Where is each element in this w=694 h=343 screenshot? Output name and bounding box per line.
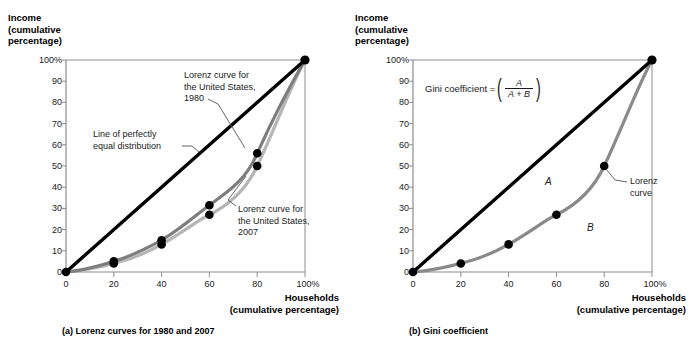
data-point-2007-60 [205, 211, 214, 220]
panel-gini-coefficient: Income (cumulative percentage) 100% 90 8… [347, 0, 694, 343]
leader-line-lorenz-curve [606, 169, 627, 182]
panel-a-caption: (a) Lorenz curves for 1980 and 2007 [62, 326, 215, 336]
annotation-lorenz-curve-line1: Lorenz [630, 176, 658, 188]
annotation-equal-distribution-line1: Line of perfectly [93, 129, 161, 141]
data-point-40 [504, 240, 513, 249]
annotation-lorenz-2007-line1: Lorenz curve for [238, 204, 310, 216]
data-point-2007-80 [253, 162, 262, 171]
data-point-2007-20 [110, 259, 119, 268]
formula-open-paren: ( [497, 78, 502, 99]
panel-lorenz-curves: Income (cumulative percentage) 100% 90 8… [0, 0, 347, 343]
data-point-60 [552, 211, 561, 220]
annotation-equal-distribution: Line of perfectly equal distribution [93, 129, 161, 152]
lorenz-curve-figure: Income (cumulative percentage) 100% 90 8… [0, 0, 694, 343]
annotation-lorenz-1980-line1: Lorenz curve for [184, 70, 256, 82]
panel-a-x-axis-title: Households (cumulative percentage) [230, 292, 339, 315]
leader-line-equal-distribution [182, 146, 199, 152]
x-axis-title-line2: (cumulative percentage) [230, 304, 339, 316]
formula-fraction: A A + B [505, 78, 533, 99]
x-axis-title-line2: (cumulative percentage) [577, 304, 686, 316]
formula-numerator: A [513, 78, 525, 88]
annotation-lorenz-curve: Lorenz curve [630, 176, 658, 199]
data-point-2007-40 [157, 240, 166, 249]
data-point-1980-100 [300, 55, 309, 64]
annotation-lorenz-2007-line3: 2007 [238, 227, 310, 239]
data-point-80 [600, 162, 609, 171]
data-point-100 [647, 55, 656, 64]
annotation-lorenz-2007: Lorenz curve for the United States, 2007 [238, 204, 310, 239]
region-label-a: A [545, 176, 552, 187]
data-point-1980-0 [62, 268, 71, 277]
data-point-1980-60 [205, 201, 214, 210]
formula-denominator: A + B [505, 88, 533, 99]
x-axis-title-line1: Households [577, 292, 686, 304]
annotation-lorenz-2007-line2: the United States, [238, 216, 310, 228]
formula-close-paren: ) [536, 78, 541, 99]
annotation-lorenz-1980: Lorenz curve for the United States, 1980 [184, 70, 256, 105]
panel-b-caption: (b) Gini coefficient [409, 326, 488, 336]
y-axis-ticks [408, 60, 413, 251]
data-point-1980-80 [253, 149, 262, 158]
annotation-lorenz-1980-line3: 1980 [184, 93, 256, 105]
annotation-lorenz-1980-line2: the United States, [184, 82, 256, 94]
data-point-0 [409, 268, 418, 277]
annotation-equal-distribution-line2: equal distribution [93, 141, 161, 153]
gini-formula-label: Gini coefficient = [425, 83, 495, 94]
gini-coefficient-formula: Gini coefficient = ( A A + B ) [425, 78, 543, 99]
x-axis-ticks [461, 272, 652, 277]
region-label-b: B [587, 222, 594, 233]
y-axis-ticks [61, 60, 66, 251]
panel-b-x-axis-title: Households (cumulative percentage) [577, 292, 686, 315]
x-axis-ticks [114, 272, 305, 277]
annotation-lorenz-curve-line2: curve [630, 188, 658, 200]
x-axis-title-line1: Households [230, 292, 339, 304]
data-point-20 [457, 259, 466, 268]
